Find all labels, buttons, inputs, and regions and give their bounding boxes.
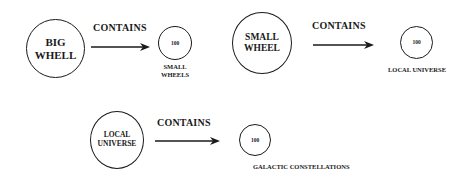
arrow-icon bbox=[90, 42, 152, 52]
small-wheels-count: 100 bbox=[171, 40, 179, 46]
local-universe-node: LOCAL UNIVERSE bbox=[90, 111, 144, 169]
contains-label-3: CONTAINS bbox=[157, 117, 211, 128]
small-wheels-label: SMALL WHEELS bbox=[158, 63, 192, 79]
small-wheels-label-1: SMALL bbox=[163, 63, 186, 70]
arrow-icon bbox=[154, 136, 222, 146]
local-universe-count: 100 bbox=[412, 39, 420, 45]
contains-label-2: CONTAINS bbox=[312, 20, 366, 31]
galactic-constellations-count: 100 bbox=[251, 137, 259, 143]
galactic-constellations-count-node: 100 bbox=[239, 124, 271, 156]
big-wheel-node: BIG WHELL bbox=[26, 19, 85, 78]
local-universe-count-node: 100 bbox=[400, 26, 433, 59]
big-wheel-label-1: BIG bbox=[45, 36, 65, 48]
small-wheel-label-2: WHEEL bbox=[244, 43, 280, 53]
small-wheel-node: SMALL WHEEL bbox=[232, 12, 292, 74]
small-wheel-label-1: SMALL bbox=[245, 32, 279, 42]
small-wheels-node: 100 bbox=[158, 26, 192, 60]
arrow-icon bbox=[312, 40, 376, 50]
small-wheels-label-2: WHEELS bbox=[161, 71, 189, 78]
local-universe-label: LOCAL UNIVERSE bbox=[383, 66, 451, 74]
galactic-constellations-label: GALACTIC CONSTELLATIONS bbox=[253, 163, 350, 171]
local-universe-label-2: UNIVERSE bbox=[98, 139, 137, 148]
contains-label-1: CONTAINS bbox=[93, 22, 147, 33]
big-wheel-label-2: WHELL bbox=[35, 49, 77, 61]
